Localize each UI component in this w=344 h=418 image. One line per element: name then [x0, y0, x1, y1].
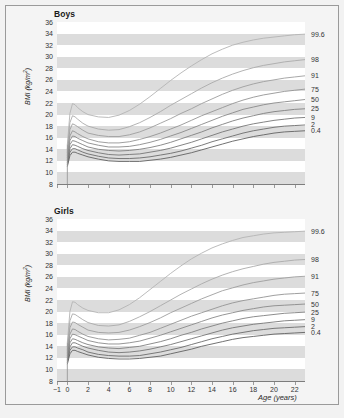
- percentile-label-91: 91: [311, 72, 319, 79]
- x-tick-mark: [150, 382, 151, 385]
- percentile-label-0.4: 0.4: [311, 329, 321, 336]
- x-tick-label: 8: [142, 386, 158, 393]
- plot-area-girls: [57, 219, 305, 381]
- x-axis-line: [57, 381, 305, 382]
- centile-curve-75: [67, 293, 305, 353]
- y-tick-label: 16: [37, 331, 53, 338]
- x-tick-mark: [109, 185, 110, 188]
- panel-girls: Girls BMI (kg/m2) Age (years) 3634323028…: [0, 200, 344, 418]
- x-tick-mark: [171, 185, 172, 188]
- y-tick-label: 12: [37, 354, 53, 361]
- y-tick-label: 28: [37, 262, 53, 269]
- x-tick-mark: [67, 382, 68, 385]
- x-tick-mark: [295, 382, 296, 385]
- y-tick-label: 20: [37, 111, 53, 118]
- x-tick-mark: [191, 185, 192, 188]
- y-tick-label: 12: [37, 157, 53, 164]
- centile-curves: [57, 219, 305, 381]
- x-tick-mark: [129, 185, 130, 188]
- y-tick-label: 8: [37, 181, 53, 188]
- y-tick-label: 28: [37, 65, 53, 72]
- y-tick-label: 18: [37, 320, 53, 327]
- y-tick-label: 34: [37, 227, 53, 234]
- percentile-label-9: 9: [311, 316, 315, 323]
- percentile-label-91: 91: [311, 273, 319, 280]
- y-tick-label: 34: [37, 30, 53, 37]
- x-tick-label: 18: [245, 386, 261, 393]
- x-tick-mark: [212, 185, 213, 188]
- x-tick-mark: [274, 185, 275, 188]
- x-tick-mark: [57, 185, 58, 188]
- y-tick-label: 26: [37, 76, 53, 83]
- y-tick-label: 22: [37, 100, 53, 107]
- centile-curve-91: [67, 76, 305, 153]
- x-tick-label: 10: [163, 386, 179, 393]
- percentile-label-99.6: 99.6: [311, 228, 325, 235]
- centile-curve-25: [67, 109, 305, 160]
- centile-curve-9: [67, 117, 305, 162]
- y-tick-label: 22: [37, 297, 53, 304]
- x-tick-mark: [67, 185, 68, 188]
- x-tick-label: 2: [80, 386, 96, 393]
- y-tick-label: 30: [37, 53, 53, 60]
- x-tick-mark: [57, 382, 58, 385]
- x-tick-mark: [150, 185, 151, 188]
- percentile-label-98: 98: [311, 256, 319, 263]
- x-tick-mark: [295, 185, 296, 188]
- percentile-label-98: 98: [311, 56, 319, 63]
- x-tick-mark: [233, 382, 234, 385]
- y-tick-label: 36: [37, 216, 53, 223]
- percentile-label-50: 50: [311, 96, 319, 103]
- centile-curves: [57, 22, 305, 184]
- x-tick-label: 16: [225, 386, 241, 393]
- percentile-label-9: 9: [311, 114, 315, 121]
- x-axis-label: Age (years): [258, 393, 297, 402]
- x-tick-label: 6: [121, 386, 137, 393]
- x-tick-mark: [129, 382, 130, 385]
- panel-title-boys: Boys: [54, 9, 75, 19]
- x-tick-label: 12: [183, 386, 199, 393]
- x-tick-mark: [88, 382, 89, 385]
- y-tick-label: 32: [37, 42, 53, 49]
- y-tick-label: 26: [37, 273, 53, 280]
- x-tick-mark: [233, 185, 234, 188]
- x-tick-mark: [171, 382, 172, 385]
- y-tick-label: 16: [37, 134, 53, 141]
- plot-area-boys: [57, 22, 305, 184]
- x-tick-mark: [191, 382, 192, 385]
- centile-curve-0.4: [67, 332, 305, 364]
- percentile-label-99.6: 99.6: [311, 31, 325, 38]
- x-tick-mark: [253, 382, 254, 385]
- panel-boys: Boys BMI (kg/m2) 36343230282624222018161…: [0, 0, 344, 200]
- percentile-label-50: 50: [311, 301, 319, 308]
- y-tick-label: 10: [37, 366, 53, 373]
- x-tick-label: 22: [287, 386, 303, 393]
- figure-root: Boys BMI (kg/m2) 36343230282624222018161…: [0, 0, 344, 418]
- x-tick-mark: [212, 382, 213, 385]
- y-tick-label: 10: [37, 169, 53, 176]
- y-axis-label-girls: BMI (kg/m2): [22, 265, 31, 302]
- x-tick-label: 20: [266, 386, 282, 393]
- x-tick-label: 4: [101, 386, 117, 393]
- y-tick-label: 24: [37, 88, 53, 95]
- percentile-label-0.4: 0.4: [311, 127, 321, 134]
- x-tick-mark: [274, 382, 275, 385]
- y-tick-label: 24: [37, 285, 53, 292]
- y-tick-label: 36: [37, 19, 53, 26]
- x-axis-line: [57, 184, 305, 185]
- y-tick-label: 8: [37, 378, 53, 385]
- percentile-label-25: 25: [311, 105, 319, 112]
- y-axis-label-boys: BMI (kg/m2): [22, 68, 31, 105]
- percentile-label-25: 25: [311, 309, 319, 316]
- y-tick-label: 30: [37, 250, 53, 257]
- x-tick-mark: [88, 185, 89, 188]
- x-tick-label: 14: [204, 386, 220, 393]
- y-tick-label: 32: [37, 239, 53, 246]
- x-tick-label: 0: [59, 386, 75, 393]
- percentile-label-75: 75: [311, 86, 319, 93]
- percentile-label-75: 75: [311, 290, 319, 297]
- centile-curve-2: [67, 327, 305, 363]
- x-tick-mark: [253, 185, 254, 188]
- y-tick-label: 14: [37, 343, 53, 350]
- y-tick-label: 14: [37, 146, 53, 153]
